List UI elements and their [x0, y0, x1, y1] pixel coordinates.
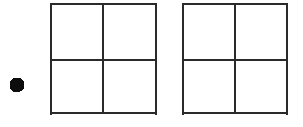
background-rect: [0, 0, 303, 127]
diagram-svg: [0, 0, 303, 127]
solid-dot: [10, 78, 25, 93]
figure-canvas: Line drawing: a filled black dot at the …: [0, 0, 303, 127]
